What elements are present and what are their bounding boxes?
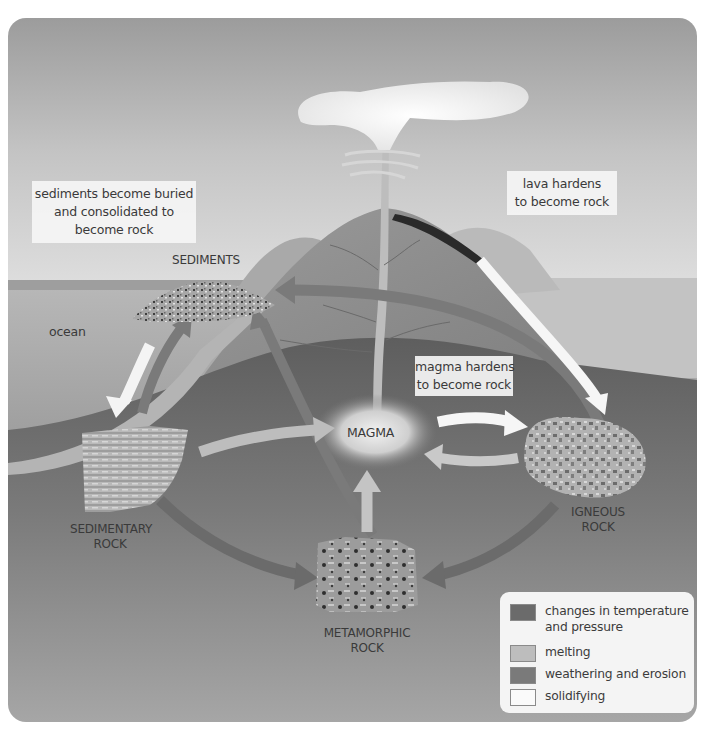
arrow-magma-to-igneous — [438, 418, 510, 422]
legend-swatch — [510, 689, 536, 706]
callout-line: magma hardens — [415, 358, 513, 376]
metamorphic-rock — [316, 537, 418, 612]
legend-label-line: changes in temperature — [545, 604, 689, 620]
legend-swatch — [510, 667, 536, 684]
legend-label: weathering and erosion — [545, 667, 686, 683]
rock-cycle-diagram: sediments become buried and consolidated… — [0, 0, 706, 730]
label-line: ROCK — [322, 641, 412, 656]
label-line: IGNEOUS — [570, 505, 626, 520]
label-line: ROCK — [570, 520, 626, 535]
legend-item-weathering-erosion: weathering and erosion — [510, 667, 686, 684]
callout-line: lava hardens — [507, 175, 617, 193]
label-ocean: ocean — [49, 324, 86, 339]
callout-magma-hardens: magma hardens to become rock — [415, 356, 513, 396]
legend-item-temperature-pressure: changes in temperature and pressure — [510, 604, 689, 635]
callout-line: sediments become buried — [32, 185, 196, 203]
legend-label: melting — [545, 645, 590, 661]
legend-swatch — [510, 604, 536, 621]
label-line: METAMORPHIC — [322, 626, 412, 641]
legend-swatch — [510, 645, 536, 662]
callout-sediments-buried: sediments become buried and consolidated… — [32, 181, 196, 243]
label-sedimentary-rock: SEDIMENTARY ROCK — [70, 522, 150, 552]
label-line: ROCK — [70, 537, 150, 552]
legend-label-line: and pressure — [545, 620, 689, 636]
callout-line: to become rock — [415, 376, 513, 394]
legend: changes in temperature and pressure melt… — [500, 592, 694, 713]
callout-lava-hardens: lava hardens to become rock — [507, 171, 617, 215]
legend-item-solidifying: solidifying — [510, 689, 605, 706]
callout-line: become rock — [32, 221, 196, 239]
label-metamorphic-rock: METAMORPHIC ROCK — [322, 626, 412, 656]
legend-label: changes in temperature and pressure — [545, 604, 689, 635]
arrow-igneous-to-magma — [440, 458, 518, 461]
legend-label: solidifying — [545, 689, 605, 705]
label-magma: MAGMA — [347, 425, 394, 440]
label-line: SEDIMENTARY — [70, 522, 150, 537]
callout-line: to become rock — [507, 193, 617, 211]
callout-line: and consolidated to — [32, 203, 196, 221]
label-sediments: SEDIMENTS — [172, 253, 240, 268]
legend-item-melting: melting — [510, 645, 590, 662]
label-igneous-rock: IGNEOUS ROCK — [570, 505, 626, 535]
